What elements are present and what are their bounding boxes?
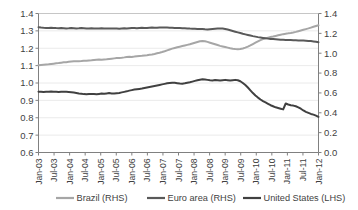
legend-label: Brazil (RHS)	[77, 193, 128, 203]
x-axis-tick-label: Jul-10	[267, 158, 277, 182]
x-axis-tick-label: Jan-10	[251, 158, 261, 184]
x-axis-tick-label: Jul-04	[80, 158, 90, 182]
legend-label: Euro area (RHS)	[168, 193, 236, 203]
chart-figure: 0.60.70.80.91.01.11.21.31.40.00.20.40.60…	[0, 0, 358, 210]
left-axis-tick-label: 1.0	[20, 77, 33, 88]
x-axis-tick-label: Jul-05	[111, 158, 121, 182]
x-axis-tick-label: Jul-11	[298, 158, 308, 181]
right-axis-tick-label: 1.2	[324, 28, 337, 39]
left-axis-tick-label: 1.4	[20, 8, 33, 19]
x-axis-tick-label: Jan-07	[158, 158, 168, 184]
right-axis-tick-label: 0.8	[324, 67, 337, 78]
legend: Brazil (RHS)Euro area (RHS)United States…	[56, 193, 345, 203]
x-axis-tick-label: Jan-05	[96, 158, 106, 184]
series-line	[39, 79, 319, 117]
series-group	[39, 25, 319, 117]
x-axis-tick-label: Jul-07	[174, 158, 184, 182]
left-axis-tick-label: 0.6	[20, 147, 33, 158]
x-axis-tick-label: Jan-09	[220, 158, 230, 184]
gridlines-group	[39, 14, 319, 136]
line-chart: 0.60.70.80.91.01.11.21.31.40.00.20.40.60…	[0, 0, 358, 210]
left-axis-tick-label: 0.8	[20, 112, 33, 123]
left-axis-tick-label: 1.2	[20, 43, 33, 54]
left-axis-tick-label: 1.1	[20, 60, 33, 71]
x-axis-tick-label: Jan-12	[314, 158, 324, 184]
x-axis-tick-label: Jan-06	[127, 158, 137, 184]
right-axis-ticks: 0.00.20.40.60.81.01.21.4	[319, 8, 338, 158]
x-axis-tick-label: Jul-08	[205, 158, 215, 182]
right-axis-tick-label: 1.4	[324, 8, 337, 19]
x-axis-ticks: Jan-03Jul-03Jan-04Jul-04Jan-05Jul-05Jan-…	[34, 153, 324, 185]
x-axis-tick-label: Jan-08	[189, 158, 199, 184]
x-axis-tick-label: Jan-04	[65, 158, 75, 184]
right-axis-tick-label: 0.4	[324, 107, 337, 118]
right-axis-tick-label: 0.0	[324, 147, 337, 158]
left-axis-tick-label: 1.3	[20, 25, 33, 36]
right-axis-tick-label: 0.2	[324, 127, 337, 138]
x-axis-tick-label: Jul-09	[236, 158, 246, 182]
right-axis-tick-label: 1.0	[324, 48, 337, 59]
right-axis-tick-label: 0.6	[324, 87, 337, 98]
legend-label: United States (LHS)	[264, 193, 346, 203]
x-axis-tick-label: Jul-06	[142, 158, 152, 182]
x-axis-tick-label: Jan-11	[282, 158, 292, 184]
x-axis-tick-label: Jan-03	[34, 158, 44, 184]
left-axis-ticks: 0.60.70.80.91.01.11.21.31.4	[20, 8, 38, 158]
left-axis-tick-label: 0.9	[20, 95, 33, 106]
left-axis-tick-label: 0.7	[20, 130, 33, 141]
x-axis-tick-label: Jul-03	[49, 158, 59, 182]
